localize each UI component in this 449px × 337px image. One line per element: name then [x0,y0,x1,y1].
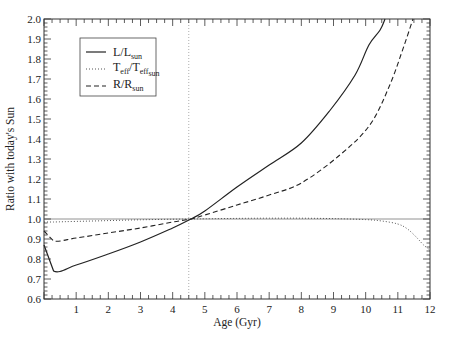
line-chart: 1234567891011120.60.70.80.91.01.11.21.31… [0,0,449,337]
y-tick-label: 0.6 [27,293,41,305]
y-axis-title: Ratio with today's Sun [4,107,17,211]
y-tick-label: 1.9 [27,33,41,45]
x-tick-label: 10 [360,303,372,315]
y-tick-label: 2.0 [27,13,41,25]
y-tick-label: 1.4 [27,133,41,145]
y-tick-label: 1.0 [27,213,41,225]
x-axis-title: Age (Gyr) [213,316,261,329]
x-tick-label: 1 [73,303,79,315]
x-tick-label: 7 [266,303,272,315]
y-tick-label: 1.3 [27,153,41,165]
x-tick-label: 2 [106,303,112,315]
y-tick-label: 1.8 [27,53,41,65]
x-tick-label: 8 [299,303,305,315]
x-tick-label: 6 [234,303,240,315]
y-tick-label: 1.1 [27,193,41,205]
x-tick-label: 11 [393,303,404,315]
y-tick-label: 1.5 [27,113,41,125]
y-tick-label: 0.7 [27,273,41,285]
y-tick-label: 0.9 [27,233,41,245]
y-tick-label: 0.8 [27,253,41,265]
x-tick-label: 9 [331,303,337,315]
series-line-dotted [44,218,430,250]
x-tick-label: 3 [138,303,144,315]
legend: L/Lsun Teff/Teffsun R/Rsun [80,38,160,96]
y-tick-label: 1.6 [27,93,41,105]
x-tick-label: 4 [170,303,176,315]
x-tick-label: 5 [202,303,208,315]
x-tick-label: 12 [425,303,436,315]
y-tick-label: 1.7 [27,73,41,85]
y-tick-label: 1.2 [27,173,41,185]
